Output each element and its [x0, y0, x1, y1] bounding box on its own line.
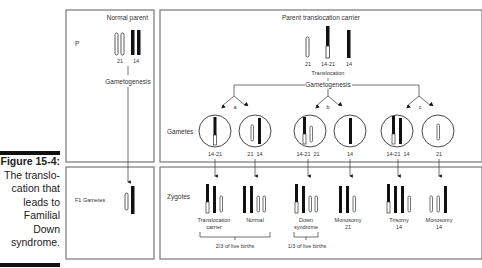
normal-parent-chromosomes [115, 30, 141, 55]
chrom-label: 14 [346, 61, 352, 67]
svg-text:21: 21 [345, 224, 351, 230]
svg-text:21: 21 [436, 151, 442, 157]
svg-text:14-21: 14-21 [208, 151, 222, 157]
svg-text:14: 14 [436, 224, 442, 230]
svg-text:Monosomy: Monosomy [335, 217, 362, 223]
svg-text:Translocation: Translocation [198, 217, 231, 223]
live-birth-brackets [200, 232, 318, 240]
svg-text:Trisomy: Trisomy [389, 217, 409, 223]
f1-frame [66, 167, 154, 259]
chrom-label: 21 [305, 61, 311, 67]
translocation-diagram: Normal parent P 21 14 Gametogenesis F1 G… [0, 0, 482, 268]
chrom-label: 21 [117, 58, 123, 64]
row-label-p: P [75, 40, 79, 47]
svg-text:21 14: 21 14 [247, 151, 262, 157]
branch-label-b: b [326, 104, 329, 110]
zygote-labels: Translocation carrier Normal Down syndro… [198, 217, 453, 230]
carrier-parent-title: Parent translocation carrier [282, 14, 361, 21]
svg-text:14-21 14: 14-21 14 [386, 151, 409, 157]
svg-text:14-21 21: 14-21 21 [296, 151, 319, 157]
chrom-label: 14-21 [321, 61, 335, 67]
row-label-f1: F1 Gametes [75, 197, 106, 203]
svg-text:Monosomy: Monosomy [426, 217, 453, 223]
bracket-label-one-third: 1/3 of live births [288, 243, 327, 249]
row-label-gametes: Gametes [167, 128, 194, 135]
svg-text:14: 14 [347, 151, 353, 157]
branch-label-c: c [419, 104, 422, 110]
translocation-label: Translocation [312, 70, 345, 76]
row-label-zygotes: Zygotes [167, 193, 191, 201]
gametogenesis-label: Gametogenesis [105, 78, 151, 86]
svg-text:syndrome: syndrome [294, 224, 318, 230]
svg-text:carrier: carrier [206, 224, 222, 230]
gamete-labels: 14-21 21 14 14-21 21 14 14-21 14 21 [208, 151, 442, 157]
panel-frames [66, 10, 482, 259]
gametogenesis-label: Gametogenesis [305, 81, 351, 89]
normal-parent-title: Normal parent [107, 14, 148, 22]
svg-text:Normal: Normal [246, 217, 264, 223]
svg-text:Down: Down [299, 217, 313, 223]
branch-label-a: a [233, 104, 237, 110]
normal-parent-frame [66, 10, 154, 162]
svg-text:14: 14 [396, 224, 402, 230]
bracket-label-two-thirds: 2/3 of live births [216, 243, 255, 249]
chrom-label: 14 [133, 58, 139, 64]
